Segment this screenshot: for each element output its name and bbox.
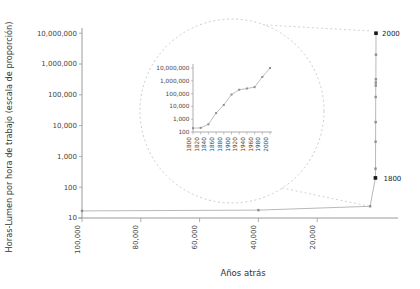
inset-x-tick-label: 1920: [232, 137, 238, 152]
inset-x-tick-label: 1880: [217, 137, 223, 152]
main-x-tick-label: 40,000: [250, 225, 258, 250]
inset-x-tick-label: 1960: [248, 137, 254, 152]
inset-y-tick-label: 10,000: [169, 103, 190, 109]
main-y-tick-label: 100: [64, 184, 77, 192]
inset-data-point: [215, 112, 217, 114]
inset-data-point: [254, 86, 256, 88]
inset-line: [193, 68, 270, 128]
callout-line-top: [266, 25, 371, 31]
main-data-point: [81, 210, 83, 212]
inset-data-point: [261, 76, 263, 78]
inset-data-point: [269, 67, 271, 69]
inset-x-tick-label: 1800: [186, 137, 192, 152]
main-x-tick-label: 60,000: [191, 225, 199, 250]
inset-y-tick-label: 100: [178, 129, 189, 135]
callout-line-bottom: [282, 188, 368, 206]
main-data-point: [257, 209, 259, 211]
main-data-point: [374, 121, 376, 123]
chart-canvas: 101001,00010,000100,0001,000,00010,000,0…: [0, 0, 420, 289]
main-y-tick-label: 10: [68, 214, 77, 222]
inset-x-tick-label: 1820: [194, 137, 200, 152]
inset-data-point: [200, 127, 202, 129]
price-of-light-figure: 101001,00010,000100,0001,000,00010,000,0…: [0, 0, 420, 289]
y-axis-title: Horas-Lumen por hora de trabajo (escala …: [4, 22, 14, 253]
labeled-data-point: [374, 176, 378, 180]
main-y-tick-label: 100,000: [48, 91, 77, 99]
main-data-point: [375, 96, 377, 98]
inset-x-tick-label: 1980: [255, 137, 261, 152]
main-y-tick-label: 10,000,000: [37, 30, 77, 38]
main-data-point: [375, 78, 377, 80]
point-label-1800: 1800: [384, 175, 402, 183]
inset-data-point: [223, 104, 225, 106]
main-x-tick-label: 100,000: [74, 225, 82, 254]
main-y-tick-label: 1,000,000: [41, 60, 77, 68]
inset-x-tick-label: 2000: [263, 137, 269, 152]
inset-y-tick-label: 10,000,000: [156, 65, 190, 71]
main-y-tick-label: 1,000: [57, 153, 77, 161]
inset-y-tick-label: 100,000: [166, 91, 190, 97]
main-series: [81, 31, 378, 212]
labeled-data-point: [374, 31, 378, 35]
magnifier-circle: [140, 19, 324, 203]
inset-y-tick-label: 1,000,000: [160, 78, 190, 84]
inset-data-point: [238, 89, 240, 91]
inset-x-tick-label: 1900: [225, 137, 231, 152]
inset-x-tick-label: 1940: [240, 137, 246, 152]
inset-axes: 1001,00010,000100,0001,000,00010,000,000…: [156, 64, 272, 152]
inset-data-point: [192, 127, 194, 129]
main-y-tick-label: 10,000: [53, 122, 78, 130]
main-line: [82, 33, 376, 211]
inset-x-tick-label: 1860: [209, 137, 215, 152]
main-data-point: [375, 81, 377, 83]
main-data-point: [369, 205, 371, 207]
inset-data-point: [207, 123, 209, 125]
main-data-point: [375, 54, 377, 56]
inset-data-point: [231, 94, 233, 96]
inset-y-tick-label: 1,000: [173, 116, 190, 122]
main-x-tick-label: 20,000: [309, 225, 317, 250]
main-data-point: [375, 84, 377, 86]
x-axis-title: Años atrás: [220, 268, 266, 278]
inset-x-tick-label: 1840: [201, 137, 207, 152]
main-data-point: [374, 141, 376, 143]
magnifier-callout: [140, 19, 371, 206]
inset-series: [192, 67, 271, 129]
point-label-2000: 2000: [382, 30, 400, 38]
inset-data-point: [246, 88, 248, 90]
main-data-point: [374, 167, 376, 169]
main-x-tick-label: 80,000: [132, 225, 140, 250]
